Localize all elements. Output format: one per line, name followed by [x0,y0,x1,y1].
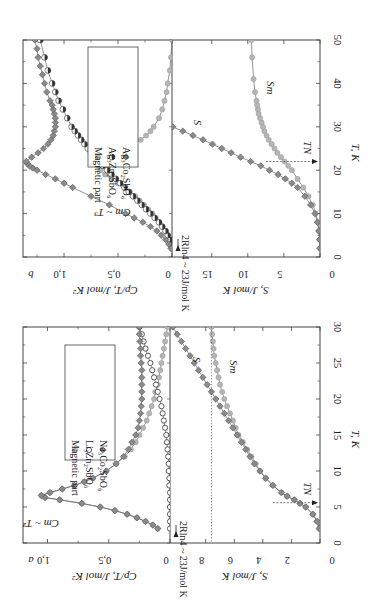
diamond-marker [155,525,161,531]
y-axis-label-cp: Cp/T, J/mol K² [73,285,138,297]
circle-marker [254,98,259,103]
y-tick-label: 1,0 [37,555,50,566]
circle-marker [156,116,161,121]
y-tick-label: 8 [199,555,204,566]
diamond-marker [39,72,45,78]
circle-marker [167,68,172,73]
x-axis-label: T, K [350,430,362,449]
diamond-marker [284,493,290,499]
open-circle-marker [155,389,160,394]
open-circle-marker [148,360,153,365]
circle-marker [212,353,217,358]
circle-marker [163,339,168,344]
open-circle-marker [157,396,162,401]
diamond-marker [47,489,53,495]
circle-marker [215,368,220,373]
sm-label: Sm [228,360,240,374]
y-tick-label: 0 [163,555,168,566]
tn-label: TN [302,141,313,155]
diamond-marker [247,158,253,164]
open-circle-marker [163,425,168,430]
rln4-label: 2Rln4 ~ 23J/mol K [180,235,191,313]
open-circle-marker [167,526,172,531]
diamond-marker [138,360,144,366]
diamond-marker [134,515,140,521]
diamond-marker [195,367,201,373]
diamond-marker [200,374,206,380]
circle-marker [164,332,169,337]
circle-marker [138,137,143,142]
open-circle-marker [145,353,150,358]
diamond-marker [97,504,103,510]
diamond-marker [139,396,145,402]
circle-marker [164,89,169,94]
y-axis-label-cp: Cp/T, J/mol K² [72,571,137,583]
diamond-marker [150,522,156,528]
diamond-marker [217,403,223,409]
open-circle-marker [151,375,156,380]
circle-marker [210,332,215,337]
diamond-marker [112,507,118,513]
open-circle-marker [160,411,165,416]
y-tick-label: 0 [329,555,334,566]
x-tick-label: 30 [332,322,343,333]
tn-arrow-icon [312,159,318,164]
circle-marker [159,360,164,365]
open-circle-marker [164,440,169,445]
s-series-group [170,37,324,251]
circle-marker [211,346,216,351]
circle-marker [252,89,257,94]
diamond-marker [131,215,137,221]
diamond-marker [174,331,180,337]
diamond-marker [266,167,272,173]
open-circle-marker [153,382,158,387]
diamond-marker [225,417,231,423]
open-circle-marker [167,519,172,524]
circle-marker [216,375,221,380]
legend-entry: Ag₃Co₂SbO₆ [121,147,132,200]
open-circle-marker [166,461,171,466]
panel-label: b [28,269,34,281]
x-tick-label: 5 [332,504,343,509]
diamond-marker [59,486,65,492]
y-tick-label: 2 [285,555,290,566]
diamond-marker [139,367,145,373]
diamond-marker [137,345,143,351]
circle-marker [161,346,166,351]
diamond-marker [316,236,322,242]
open-circle-marker [167,476,172,481]
circle-marker [149,404,154,409]
circle-marker [144,418,149,423]
series-line [211,327,319,529]
circle-marker [162,98,167,103]
tn-arrow-icon [312,500,318,505]
diamond-marker [139,381,145,387]
x-tick-label: 0 [332,540,343,545]
circle-marker [217,382,222,387]
y-tick-label: 15 [202,269,213,280]
s-label: S [191,357,203,363]
diamond-marker [140,219,146,225]
diamond-marker [317,245,323,251]
x-tick-label: 50 [332,35,343,46]
open-circle-marker [150,368,155,373]
x-tick-label: 0 [332,254,343,259]
diamond-marker [69,184,75,190]
circle-marker [156,375,161,380]
circle-marker [143,133,148,138]
y-tick-label: 5 [277,269,282,280]
diamond-marker [147,223,153,229]
circle-marker [250,55,255,60]
panel-b: 01020304050T, K00,51,0Cp/T, J/mol K²b051… [23,35,362,313]
y-tick-label: 0,5 [98,555,111,566]
diamond-marker [79,500,85,506]
diamond-marker [316,228,322,234]
diamond-marker [41,80,47,86]
circle-marker [213,360,218,365]
diamond-marker [37,63,43,69]
arrow-up-icon [174,531,179,537]
circle-marker [147,411,152,416]
x-tick-label: 40 [332,78,343,89]
open-circle-marker [164,432,169,437]
circle-marker [148,129,153,134]
